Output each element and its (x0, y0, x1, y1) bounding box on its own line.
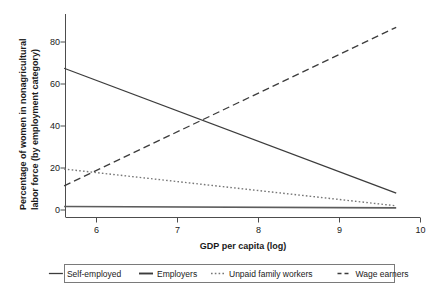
legend-label-wage-earners: Wage earners (356, 269, 409, 279)
y-tick-labels: 0 20 40 60 80 (50, 37, 60, 215)
y-axis-ticks (61, 42, 66, 210)
legend-item-employers[interactable]: Employers (139, 269, 197, 279)
legend-label-self-employed: Self-employed (67, 269, 122, 279)
chart-figure: Percentage of women in nonagricultural l… (0, 0, 431, 288)
y-tick-label-80: 80 (50, 37, 60, 47)
x-tick-labels: 6 7 8 9 10 (94, 225, 426, 235)
x-tick-label-7: 7 (175, 225, 180, 235)
y-tick-label-20: 20 (50, 163, 60, 173)
legend-item-wage-earners[interactable]: Wage earners (338, 269, 409, 279)
series-line-wage-earners (64, 27, 396, 186)
y-axis-title-line-2: labor force (by employment category) (30, 49, 40, 210)
y-tick-label-0: 0 (55, 205, 60, 215)
x-tick-label-9: 9 (337, 225, 342, 235)
y-axis-title-line-1: Percentage of women in nonagricultural (18, 38, 28, 210)
legend-item-unpaid-family-workers[interactable]: Unpaid family workers (211, 269, 313, 279)
legend-item-self-employed[interactable]: Self-employed (49, 269, 122, 279)
x-axis-ticks (97, 218, 421, 223)
x-tick-label-10: 10 (415, 225, 425, 235)
x-tick-label-8: 8 (256, 225, 261, 235)
y-tick-label-60: 60 (50, 79, 60, 89)
series-group (64, 27, 396, 208)
legend-label-employers: Employers (157, 269, 197, 279)
y-axis-title: Percentage of women in nonagricultural l… (18, 38, 40, 210)
legend: Self-employedEmployersUnpaid family work… (49, 269, 409, 279)
line-chart-canvas: Percentage of women in nonagricultural l… (0, 0, 431, 288)
y-tick-label-40: 40 (50, 121, 60, 131)
x-tick-label-6: 6 (94, 225, 99, 235)
x-axis-title: GDP per capita (log) (200, 241, 286, 251)
legend-label-unpaid-family-workers: Unpaid family workers (229, 269, 313, 279)
series-line-employers (64, 206, 396, 207)
